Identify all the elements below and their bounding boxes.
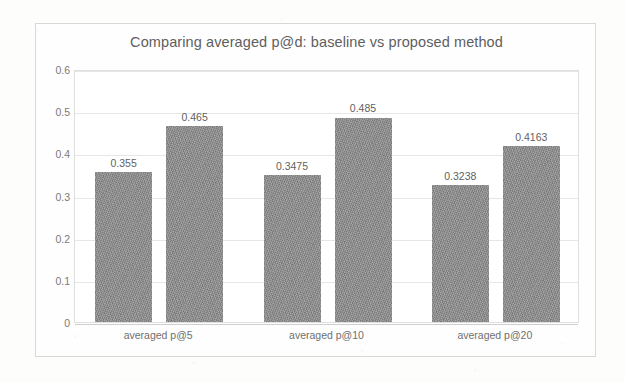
x-axis-tick-label: averaged p@10: [289, 329, 364, 341]
y-axis-tick-label: 0.3: [40, 191, 70, 203]
y-axis-tick-label: 0.5: [40, 106, 70, 118]
bar-baseline-2[interactable]: [264, 175, 321, 322]
bar-baseline-3[interactable]: [432, 185, 489, 322]
bar-value-label: 0.485: [350, 102, 376, 114]
y-axis-tick-label: 0: [40, 317, 70, 329]
plot-area: 0.3550.4650.34750.4850.32380.4163: [74, 70, 579, 323]
x-axis-tick-label: averaged p@20: [457, 329, 532, 341]
bar-proposed-2[interactable]: [335, 118, 392, 323]
x-axis-tick-label: averaged p@5: [124, 329, 193, 341]
y-axis-tick-label: 0.2: [40, 233, 70, 245]
bar-value-label: 0.3238: [444, 170, 476, 182]
gridline: [75, 71, 578, 72]
bar-value-label: 0.3475: [276, 160, 308, 172]
chart-title: Comparing averaged p@d: baseline vs prop…: [36, 34, 597, 50]
bar-proposed-3[interactable]: [503, 146, 560, 322]
bar-baseline-1[interactable]: [95, 172, 152, 322]
y-axis-tick-label: 0.4: [40, 148, 70, 160]
bar-value-label: 0.4163: [515, 131, 547, 143]
y-axis-tick-label: 0.6: [40, 64, 70, 76]
gridline: [75, 113, 578, 114]
bar-proposed-1[interactable]: [166, 126, 223, 322]
y-axis-tick-label: 0.1: [40, 275, 70, 287]
gridline: [75, 324, 578, 325]
bar-value-label: 0.465: [182, 111, 208, 123]
chart-container: Comparing averaged p@d: baseline vs prop…: [35, 23, 596, 357]
x-axis: averaged p@5averaged p@10averaged p@20: [74, 327, 579, 351]
bar-value-label: 0.355: [111, 157, 137, 169]
y-axis: 00.10.20.30.40.50.6: [36, 70, 70, 323]
